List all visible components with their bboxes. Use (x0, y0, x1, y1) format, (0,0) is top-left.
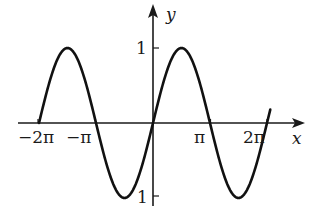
y-axis-label: y (165, 4, 176, 24)
tick-label-neg-2pi: −2π (18, 127, 54, 147)
tick-label-pi: π (194, 127, 205, 147)
x-axis-label: x (292, 128, 302, 148)
tick-label-y-1: 1 (136, 38, 147, 58)
sine-graph: y x −2π −π π 2π 1 1 (0, 0, 315, 214)
tick-label-y-neg1: 1 (137, 187, 148, 207)
tick-label-neg-pi: −π (66, 127, 91, 147)
tick-label-2pi: 2π (243, 127, 265, 147)
